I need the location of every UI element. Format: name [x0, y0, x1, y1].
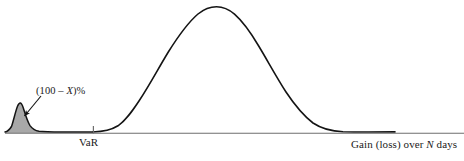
tail-probability-annotation: (100 – X)% [36, 85, 85, 96]
distribution-plot-svg [0, 0, 464, 161]
tail-annotation-prefix: (100 – [36, 85, 66, 96]
var-distribution-figure: (100 – X)% VaR Gain (loss) over N days [0, 0, 464, 161]
x-axis-label-suffix: days [434, 138, 457, 150]
main-distribution-curve [93, 7, 395, 132]
var-threshold-label: VaR [79, 136, 98, 148]
annotation-arrow-icon [25, 96, 42, 116]
x-axis-label-prefix: Gain (loss) over [351, 138, 426, 150]
x-axis-label-variable: N [426, 138, 433, 150]
loss-tail-shaded-region [5, 103, 93, 133]
tail-annotation-suffix: )% [73, 85, 85, 96]
x-axis-label: Gain (loss) over N days [351, 138, 457, 150]
